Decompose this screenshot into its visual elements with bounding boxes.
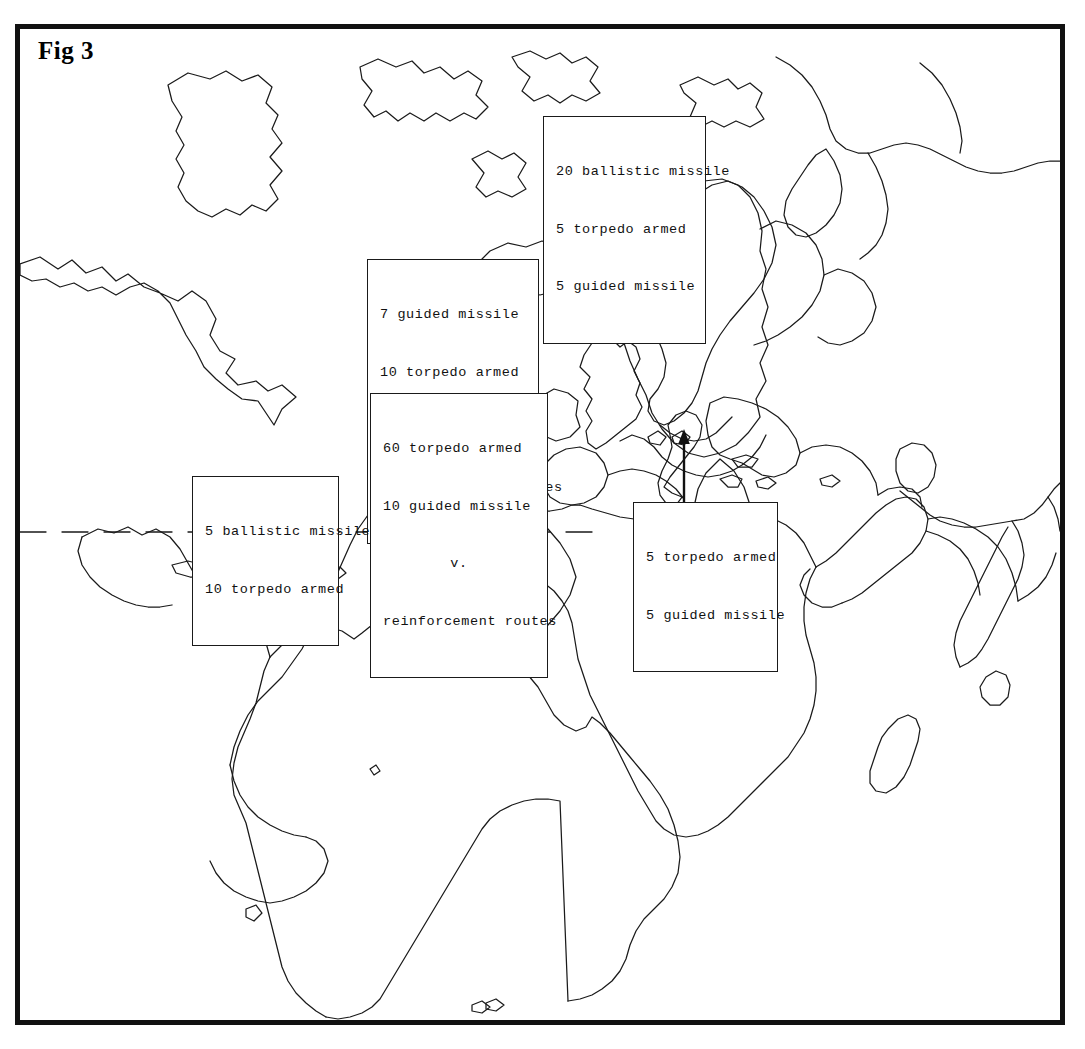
callout-line: 5 torpedo armed [646, 548, 765, 567]
figure-frame: Fig 3 [15, 24, 1065, 1025]
callout-mediterranean: 5 torpedo armed 5 guided missile [633, 502, 778, 672]
callout-line: 5 guided missile [646, 606, 765, 625]
callout-reinforcement-routes: 60 torpedo armed 10 guided missile v. re… [370, 393, 548, 678]
callout-line: 5 guided missile [556, 277, 693, 296]
mediterranean-arrow [675, 427, 693, 505]
callout-line: 5 ballistic missile [205, 522, 326, 541]
callout-line: 10 torpedo armed [380, 363, 526, 382]
callout-norwegian-sea: 20 ballistic missile 5 torpedo armed 5 g… [543, 116, 706, 344]
callout-line-versus: v. [383, 554, 535, 573]
callout-line: 10 torpedo armed [205, 580, 326, 599]
callout-line: reinforcement routes [383, 612, 535, 631]
callout-line: 20 ballistic missile [556, 162, 693, 181]
callout-line: 7 guided missile [380, 305, 526, 324]
callout-line: 10 guided missile [383, 497, 535, 516]
figure-page: Fig 3 [0, 0, 1085, 1049]
callout-line: 5 torpedo armed [556, 220, 693, 239]
callout-line: 60 torpedo armed [383, 439, 535, 458]
callout-caribbean: 5 ballistic missile 10 torpedo armed [192, 476, 339, 646]
